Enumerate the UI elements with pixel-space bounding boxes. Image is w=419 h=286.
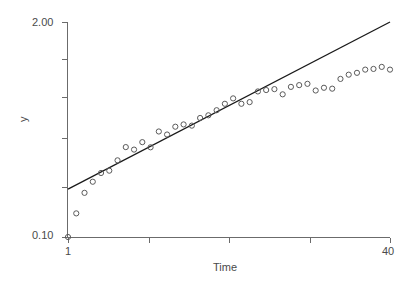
regression-line [68, 22, 390, 189]
data-point [272, 87, 277, 92]
data-point [264, 87, 269, 92]
data-point [313, 88, 318, 93]
data-point [74, 211, 79, 216]
data-point [371, 66, 376, 71]
fitted-regression-line [68, 22, 390, 189]
data-point [131, 147, 136, 152]
data-point [338, 76, 343, 81]
data-point [156, 129, 161, 134]
x-tick-label-right: 40 [382, 246, 394, 257]
data-point [181, 122, 186, 127]
x-axis-title: Time [213, 262, 237, 273]
data-point [173, 124, 178, 129]
data-point [140, 140, 145, 145]
data-point [363, 67, 368, 72]
data-point [387, 67, 392, 72]
data-point [247, 100, 252, 105]
data-point-markers [65, 64, 392, 239]
x-axis-ticks [69, 238, 391, 244]
data-point [288, 84, 293, 89]
data-point [82, 190, 87, 195]
chart-container: 2.00 0.10 1 40 y Time [0, 0, 419, 286]
data-point [164, 132, 169, 137]
data-point [123, 144, 128, 149]
data-point [222, 101, 227, 106]
data-point [297, 83, 302, 88]
data-point [107, 168, 112, 173]
data-point [354, 70, 359, 75]
data-point [346, 72, 351, 77]
chart-plot-area [0, 0, 419, 286]
axes-group [62, 22, 391, 243]
data-point [321, 85, 326, 90]
y-tick-label-top: 2.00 [32, 17, 53, 28]
data-point [330, 86, 335, 91]
data-point [231, 96, 236, 101]
data-point [115, 158, 120, 163]
y-axis-ticks [62, 23, 68, 238]
data-point [90, 179, 95, 184]
data-point [239, 101, 244, 106]
x-tick-label-left: 1 [65, 246, 71, 257]
data-point [280, 92, 285, 97]
data-point [379, 64, 384, 69]
y-axis-title: y [18, 117, 29, 123]
data-point [305, 81, 310, 86]
y-tick-label-bottom: 0.10 [32, 230, 53, 241]
